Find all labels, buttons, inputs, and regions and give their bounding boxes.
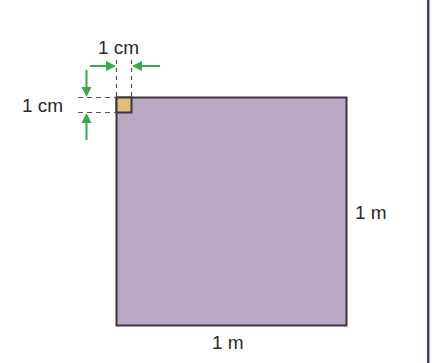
diagram-canvas bbox=[0, 0, 432, 363]
large-square bbox=[117, 98, 347, 326]
right-border-rule bbox=[427, 0, 430, 363]
small-square-width-label: 1 cm bbox=[98, 38, 139, 57]
horizontal-dashed-guides bbox=[78, 98, 115, 113]
large-square-right-label: 1 m bbox=[355, 203, 387, 222]
small-square bbox=[117, 98, 132, 113]
small-square-height-label: 1 cm bbox=[22, 96, 63, 115]
height-arrows bbox=[82, 70, 92, 140]
width-arrows bbox=[90, 61, 160, 71]
vertical-dashed-guides bbox=[117, 60, 132, 96]
large-square-bottom-label: 1 m bbox=[212, 333, 244, 352]
